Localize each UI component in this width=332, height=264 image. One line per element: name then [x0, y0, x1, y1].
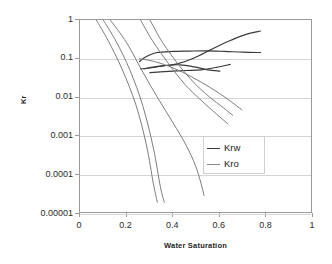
x-tick-label: 0	[59, 221, 99, 230]
legend-label-kro: Kro	[224, 159, 239, 169]
plot-area	[79, 19, 312, 213]
legend-swatch-kro-icon	[207, 164, 220, 165]
legend-swatch-krw-icon	[207, 148, 220, 149]
legend-item-krw[interactable]: Krw	[207, 140, 261, 156]
chart-container: Kr Water Saturation 10.10.010.0010.00010…	[0, 0, 332, 264]
curve-kro-1	[96, 20, 157, 202]
y-tick-label: 1	[68, 15, 73, 24]
legend: Krw Kro	[203, 136, 265, 174]
gridline-y-5	[80, 214, 311, 215]
curve-kro-2	[103, 20, 164, 202]
x-tick-label: 0.2	[106, 221, 146, 230]
curve-krw-1	[139, 51, 260, 62]
y-tick-label: 0.001	[50, 131, 73, 140]
y-tick-label: 0.0001	[45, 170, 73, 179]
x-tick-label: 0.8	[245, 221, 285, 230]
data-curves	[80, 20, 313, 214]
x-axis-title: Water Saturation	[79, 241, 312, 250]
y-axis-title: Kr	[19, 96, 28, 104]
legend-label-krw: Krw	[224, 143, 240, 153]
y-tick-label: 0.00001	[40, 209, 73, 218]
legend-item-kro[interactable]: Kro	[207, 156, 261, 172]
x-tick-label: 0.6	[199, 221, 239, 230]
y-tick-label: 0.01	[55, 92, 73, 101]
curve-kro-5	[150, 20, 233, 115]
y-tick-label: 0.1	[60, 53, 73, 62]
x-tick-label: 1	[292, 221, 332, 230]
x-tick-label: 0.4	[152, 221, 192, 230]
